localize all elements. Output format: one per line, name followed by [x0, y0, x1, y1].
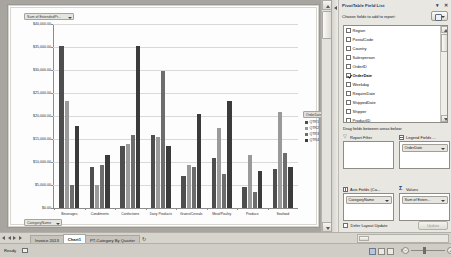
legend-fields-header: Legend Fields ... [399, 133, 450, 141]
field-checkbox[interactable] [346, 118, 351, 123]
field-list-item[interactable]: OrderDate [344, 71, 447, 80]
first-sheet-icon[interactable] [2, 236, 5, 240]
report-filter-area[interactable]: Report Filter [343, 133, 394, 169]
next-sheet-icon[interactable] [13, 236, 16, 240]
axis-fields-dropzone[interactable]: CategoryName [343, 193, 394, 221]
bar[interactable] [166, 146, 170, 208]
field-checkbox[interactable] [346, 28, 351, 33]
axis-fields-area[interactable]: Axis Fields (Ca... CategoryName [343, 185, 394, 221]
field-list-options-button[interactable] [431, 11, 448, 21]
chart-frame[interactable]: Sum of ExtendedPr... CategoryName $40,00… [7, 4, 320, 228]
bar[interactable] [278, 112, 282, 208]
sheet-nav-buttons[interactable] [2, 236, 22, 240]
field-list-item[interactable]: Shipper [344, 107, 447, 116]
bar[interactable] [90, 167, 94, 208]
values-dropzone[interactable]: Sum of Exten... [399, 193, 450, 221]
macro-record-icon[interactable] [22, 248, 28, 253]
minus-icon[interactable]: − [402, 247, 409, 254]
bar[interactable] [212, 158, 216, 208]
field-checkbox[interactable] [346, 109, 351, 114]
update-button[interactable]: Update [418, 221, 448, 230]
field-checkbox[interactable] [346, 46, 351, 51]
field-checkbox[interactable] [346, 64, 351, 69]
legend-field-pill[interactable]: OrderDate [402, 144, 448, 152]
bar[interactable] [248, 155, 252, 208]
scroll-down-button[interactable] [441, 115, 448, 122]
value-field-button[interactable]: Sum of ExtendedPr... [24, 13, 74, 20]
pane-resize-grip[interactable] [332, 0, 339, 232]
bar[interactable] [197, 114, 201, 208]
field-list-box[interactable]: RegionPostalCodeCountrySalespersonOrderI… [343, 25, 448, 123]
legend-fields-label: Legend Fields ... [406, 135, 436, 140]
bar[interactable] [59, 46, 63, 208]
prev-sheet-icon[interactable] [8, 236, 11, 240]
field-label: Weekday [353, 82, 370, 87]
field-checkbox[interactable] [346, 37, 351, 42]
field-list-item[interactable]: Country [344, 44, 447, 53]
field-list-scrollbar[interactable] [440, 26, 447, 122]
field-list-item[interactable]: OrderID [344, 62, 447, 71]
value-field-pill[interactable]: Sum of Exten... [402, 196, 448, 204]
field-checkbox[interactable] [346, 82, 351, 87]
close-icon[interactable]: ✕ [444, 3, 448, 8]
bar[interactable] [95, 185, 99, 208]
bar[interactable] [187, 165, 191, 208]
bar[interactable] [273, 169, 277, 208]
view-mode-buttons[interactable] [369, 248, 394, 255]
bar[interactable] [253, 192, 257, 208]
bar[interactable] [258, 171, 262, 208]
zoom-slider-handle[interactable] [423, 247, 426, 254]
field-list-item[interactable]: RequireDate [344, 89, 447, 98]
normal-view-button[interactable] [369, 248, 376, 255]
bar[interactable] [192, 167, 196, 208]
zoom-slider[interactable]: − + [411, 250, 445, 251]
bar[interactable] [65, 101, 69, 209]
bar[interactable] [288, 167, 292, 208]
bar[interactable] [222, 174, 226, 208]
plus-icon[interactable]: + [447, 247, 451, 254]
bar[interactable] [75, 126, 79, 208]
bar[interactable] [120, 146, 124, 208]
legend-fields-area[interactable]: Legend Fields ... OrderDate [399, 133, 450, 169]
bar[interactable] [105, 155, 109, 208]
axis-field-pill[interactable]: CategoryName [346, 196, 392, 204]
field-checkbox[interactable] [346, 100, 351, 105]
category-field-button[interactable]: CategoryName [24, 219, 62, 226]
values-area[interactable]: Values Sum of Exten... [399, 185, 450, 221]
scroll-up-button[interactable] [441, 26, 448, 33]
scroll-thumb[interactable] [441, 34, 448, 52]
worksheet-vertical-scrollbar[interactable] [321, 0, 331, 232]
bar[interactable] [283, 153, 287, 208]
field-list-item[interactable]: PostalCode [344, 35, 447, 44]
bar[interactable] [136, 46, 140, 208]
field-checkbox[interactable] [346, 73, 351, 78]
field-checkbox[interactable] [346, 55, 351, 60]
bar[interactable] [227, 101, 231, 209]
page-break-view-button[interactable] [387, 248, 394, 255]
field-checkbox[interactable] [346, 91, 351, 96]
bar[interactable] [161, 71, 165, 208]
field-list-item[interactable]: Region [344, 26, 447, 35]
bar[interactable] [151, 135, 155, 208]
field-list-item[interactable]: ProductID [344, 116, 447, 123]
horizontal-scrollbar[interactable] [357, 234, 449, 243]
field-list-item[interactable]: Salesperson [344, 53, 447, 62]
y-axis-tick-mark [51, 185, 53, 186]
bar[interactable] [156, 137, 160, 208]
legend-fields-dropzone[interactable]: OrderDate [399, 141, 450, 169]
bar[interactable] [126, 144, 130, 208]
bar[interactable] [131, 135, 135, 208]
field-list-item[interactable]: ShippedDate [344, 98, 447, 107]
bar[interactable] [242, 187, 246, 208]
defer-layout-checkbox[interactable] [343, 223, 348, 228]
field-list-item[interactable]: Weekday [344, 80, 447, 89]
last-sheet-icon[interactable] [19, 236, 22, 240]
scroll-thumb[interactable] [359, 236, 369, 241]
bar[interactable] [181, 176, 185, 208]
chevron-down-icon[interactable]: ▾ [436, 3, 439, 8]
bar[interactable] [217, 128, 221, 208]
report-filter-dropzone[interactable] [343, 141, 394, 169]
bar[interactable] [100, 165, 104, 208]
page-layout-view-button[interactable] [378, 248, 385, 255]
bar[interactable] [70, 185, 74, 208]
